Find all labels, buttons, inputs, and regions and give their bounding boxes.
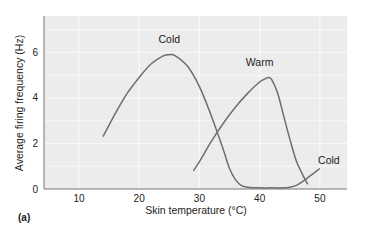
x-tick-labels: 1020304050 (73, 193, 326, 204)
x-tick-label: 50 (314, 193, 326, 204)
chart: 0246 1020304050 ColdWarmCold Skin temper… (0, 0, 366, 238)
curve-label: Cold (158, 33, 180, 45)
x-axis-label: Skin temperature (°C) (145, 204, 247, 216)
y-tick-label: 6 (32, 47, 38, 58)
y-tick-labels: 0246 (32, 47, 38, 195)
y-tick-label: 0 (32, 184, 38, 195)
curve-label: Warm (246, 56, 274, 68)
y-tick-label: 4 (32, 92, 38, 103)
curve-label: Cold (318, 154, 340, 166)
plot-area (44, 16, 347, 189)
y-tick-label: 2 (32, 138, 38, 149)
x-tick-label: 30 (194, 193, 206, 204)
x-tick-label: 40 (254, 193, 266, 204)
y-axis-label: Average firing frequency (Hz) (13, 35, 25, 171)
panel-label: (a) (18, 212, 30, 223)
x-tick-label: 20 (134, 193, 146, 204)
x-tick-label: 10 (73, 193, 85, 204)
